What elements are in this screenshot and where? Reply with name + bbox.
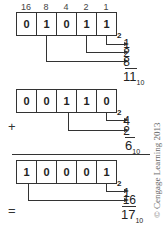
weight-4: 4: [56, 2, 76, 12]
bit-cell: 1: [37, 13, 57, 35]
binary-register-result: 1 0 0 0 1: [16, 160, 117, 184]
bit-cell: 0: [17, 90, 37, 112]
bit-cell: 1: [97, 161, 116, 183]
weight-16: 16: [16, 2, 36, 12]
connector-line: [46, 36, 47, 62]
bit-cell: 1: [57, 90, 77, 112]
bit-cell: 0: [57, 13, 77, 35]
copyright-credit: © Cengage Learning 2013: [152, 122, 162, 218]
bit-cell: 1: [77, 90, 97, 112]
bit-cell: 0: [37, 161, 57, 183]
binary-register-addend1: 0 1 0 1 1: [16, 12, 117, 36]
decimal-result: 1710: [121, 207, 143, 224]
connector-line: [28, 200, 125, 201]
term-value: 2: [106, 124, 130, 138]
bit-cell: 1: [17, 161, 37, 183]
binary-register-addend2: 0 0 1 1 0: [16, 89, 117, 113]
weight-2: 2: [76, 2, 96, 12]
bit-cell: 0: [37, 90, 57, 112]
bit-cell: 0: [77, 161, 97, 183]
connector-line: [28, 184, 29, 201]
bit-cell: 1: [97, 13, 116, 35]
plus-operator: +: [8, 119, 16, 134]
decimal-result: 610: [125, 138, 140, 155]
decimal-value: 11: [123, 69, 137, 84]
decimal-value: 17: [121, 207, 135, 222]
connector-line: [68, 113, 69, 131]
decimal-base: 10: [135, 217, 143, 224]
bit-cell: 1: [77, 13, 97, 35]
sum-separator-line: [12, 154, 150, 155]
weight-1: 1: [96, 2, 116, 12]
term-value: 8: [106, 55, 130, 69]
term-value: 16: [112, 193, 136, 207]
decimal-result: 1110: [123, 69, 144, 86]
connector-line: [86, 36, 87, 53]
bit-cell: 0: [57, 161, 77, 183]
bit-cell: 0: [17, 13, 37, 35]
weight-8: 8: [36, 2, 56, 12]
bit-cell: 0: [97, 90, 116, 112]
decimal-base: 10: [137, 79, 145, 86]
equals-operator: =: [8, 203, 16, 218]
